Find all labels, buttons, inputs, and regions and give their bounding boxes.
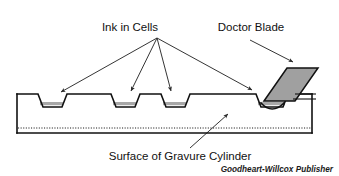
- leader-arrow-cell-4: [157, 38, 252, 90]
- ink-fill-cell-3: [163, 102, 186, 105]
- ink-fill-group: [40, 102, 285, 105]
- label-surface-of-gravure-cylinder: Surface of Gravure Cylinder: [109, 150, 252, 162]
- ink-in-cells-leader-group: [61, 38, 252, 92]
- label-doctor-blade: Doctor Blade: [218, 21, 284, 33]
- leader-arrow-cylinder-surface: [190, 114, 228, 148]
- leader-arrow-doctor-blade: [250, 40, 293, 62]
- leader-arrow-cell-3: [157, 38, 171, 91]
- gravure-cylinder-figure: Ink in Cells Doctor Blade Surface of Gra…: [0, 0, 339, 176]
- doctor-blade-assembly: [264, 68, 318, 101]
- publisher-credit: Goodheart-Willcox Publisher: [221, 165, 334, 174]
- ink-fill-cell-1: [40, 102, 63, 105]
- leader-arrow-cell-2: [131, 38, 157, 91]
- label-ink-in-cells: Ink in Cells: [102, 21, 158, 33]
- doctor-blade-body: [264, 68, 318, 101]
- ink-fill-cell-2: [113, 102, 136, 105]
- leader-arrow-cell-1: [61, 38, 157, 92]
- diagram-canvas: Ink in Cells Doctor Blade Surface of Gra…: [0, 0, 339, 176]
